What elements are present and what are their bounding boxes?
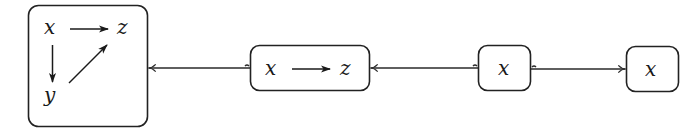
node-full-var-x: x <box>44 15 55 39</box>
node-x2-var-x: x <box>645 57 656 81</box>
link-x1-to-xz <box>371 65 479 68</box>
node-full-var-y: y <box>43 83 56 107</box>
node-x1: x <box>479 46 531 91</box>
node-xz-var-z: z <box>339 56 351 80</box>
link-xz-to-full <box>149 65 251 68</box>
node-xz: x z <box>251 46 370 91</box>
hook-tail-icon <box>473 65 477 66</box>
node-x1-var-x: x <box>498 56 509 80</box>
node-x2: x <box>627 47 679 92</box>
hook-tail-icon <box>245 65 249 66</box>
link-x1-to-x2 <box>531 66 626 69</box>
diagram-canvas: x z y x z x x <box>0 0 698 136</box>
node-full-var-z: z <box>116 15 128 39</box>
node-full: x z y <box>29 6 148 127</box>
node-xz-var-x: x <box>265 56 276 80</box>
hook-tail-icon <box>532 66 536 67</box>
